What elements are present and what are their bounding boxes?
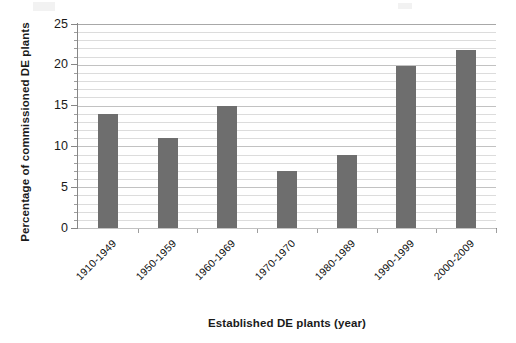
x-axis-tick-labels: 1910-19491950-19591960-19691970-19701980… xyxy=(0,0,516,343)
x-axis-tick xyxy=(138,229,139,233)
x-axis-title: Established DE plants (year) xyxy=(78,317,496,329)
x-axis-tick xyxy=(436,229,437,233)
chart-figure: Percentage of commissioned DE plants 25 … xyxy=(0,0,516,343)
x-axis-tick xyxy=(197,229,198,233)
x-axis-tick xyxy=(496,229,497,233)
x-axis-tick xyxy=(317,229,318,233)
x-axis-tick xyxy=(377,229,378,233)
x-axis-tick xyxy=(257,229,258,233)
